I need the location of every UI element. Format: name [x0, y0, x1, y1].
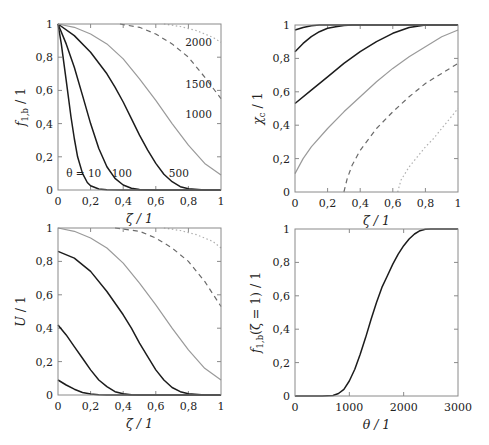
- plot-frame: [295, 229, 458, 396]
- y-tick-label: 0: [46, 184, 53, 197]
- x-tick-label: 0,8: [417, 197, 435, 210]
- curve-label: 2000: [185, 36, 212, 48]
- y-tick-label: 0,2: [273, 357, 291, 370]
- x-tick-label: 1000: [335, 401, 363, 414]
- series-line: [295, 30, 458, 174]
- x-tick-label: 0: [292, 401, 299, 414]
- x-axis-label: ζ / 1: [126, 211, 153, 226]
- curve-label: θ = 10: [66, 167, 101, 179]
- y-tick-label: 0,2: [273, 153, 291, 166]
- x-tick-label: 0: [55, 195, 62, 208]
- plot-top-left-f1b: 00,20,40,60,8100,20,40,60,81θ = 10100500…: [13, 18, 225, 226]
- y-tick-label: 0,2: [36, 151, 54, 164]
- x-tick-label: 1: [218, 400, 225, 413]
- plot-frame: [58, 228, 221, 395]
- x-tick-label: 3000: [444, 401, 472, 414]
- x-tick-label: 0,2: [82, 400, 100, 413]
- y-tick-label: 0,8: [36, 51, 54, 64]
- curve-label: 500: [169, 167, 189, 179]
- y-tick-label: 0,8: [273, 52, 291, 65]
- x-tick-label: 0: [55, 400, 62, 413]
- y-tick-label: 0: [283, 186, 290, 199]
- plot-top-right-chi-c: 00,20,40,60,8100,20,40,60,81ζ / 1χc / 1: [250, 19, 462, 228]
- x-tick-label: 0,4: [114, 195, 132, 208]
- series-line: [295, 229, 458, 396]
- x-tick-label: 0,6: [147, 400, 165, 413]
- y-tick-label: 1: [283, 19, 290, 32]
- plot-bottom-left-U: 00,20,40,60,8100,20,40,60,81ζ / 1U / 1: [13, 222, 225, 431]
- x-tick-label: 0,8: [180, 400, 198, 413]
- y-tick-label: 1: [283, 223, 290, 236]
- y-tick-label: 0,8: [36, 255, 54, 268]
- y-tick-label: 0,4: [36, 322, 54, 335]
- x-tick-label: 1: [218, 195, 225, 208]
- series-line: [58, 380, 221, 395]
- y-tick-label: 1: [46, 222, 53, 235]
- x-axis-label: ζ / 1: [126, 416, 153, 431]
- y-axis-label: U / 1: [13, 296, 28, 327]
- series-line: [164, 228, 221, 248]
- series-line: [344, 63, 458, 192]
- y-tick-label: 0,2: [36, 356, 54, 369]
- series-line: [115, 228, 221, 307]
- series-line: [58, 251, 221, 395]
- curve-label: 100: [112, 167, 132, 179]
- y-tick-label: 0,6: [36, 84, 54, 97]
- x-axis-label: ζ / 1: [363, 213, 390, 228]
- x-tick-label: 0,6: [147, 195, 165, 208]
- y-tick-label: 0,4: [273, 119, 291, 132]
- x-tick-label: 0,4: [114, 400, 132, 413]
- x-tick-label: 0,4: [351, 197, 369, 210]
- y-axis-label: f1,b(ζ = 1) / 1: [248, 272, 265, 354]
- curve-label: 1500: [185, 78, 212, 90]
- plot-bottom-right-f1b-at-zeta1: 010002000300000,20,40,60,81θ / 1f1,b(ζ =…: [248, 223, 472, 432]
- curve-label: 1000: [185, 108, 212, 120]
- y-axis-label: f1,b / 1: [13, 88, 30, 127]
- y-tick-label: 0,4: [273, 323, 291, 336]
- y-tick-label: 0,4: [36, 118, 54, 131]
- y-tick-label: 0: [283, 390, 290, 403]
- series-line: [398, 109, 458, 193]
- y-tick-label: 0,8: [273, 256, 291, 269]
- figure: 00,20,40,60,8100,20,40,60,81θ = 10100500…: [0, 0, 489, 445]
- y-tick-label: 0,6: [36, 289, 54, 302]
- plot-frame: [295, 25, 458, 192]
- x-tick-label: 0,2: [82, 195, 100, 208]
- y-tick-label: 0,6: [273, 290, 291, 303]
- y-tick-label: 0: [46, 389, 53, 402]
- x-tick-label: 0,2: [319, 197, 337, 210]
- x-tick-label: 0,6: [384, 197, 402, 210]
- series-line: [295, 25, 458, 52]
- x-tick-label: 1: [455, 197, 462, 210]
- y-axis-label: χc / 1: [250, 92, 267, 125]
- x-tick-label: 2000: [390, 401, 418, 414]
- series-line: [295, 25, 458, 104]
- y-tick-label: 0,6: [273, 86, 291, 99]
- x-tick-label: 0,8: [180, 195, 198, 208]
- y-tick-label: 1: [46, 18, 53, 31]
- x-tick-label: 0: [292, 197, 299, 210]
- x-axis-label: θ / 1: [363, 417, 391, 432]
